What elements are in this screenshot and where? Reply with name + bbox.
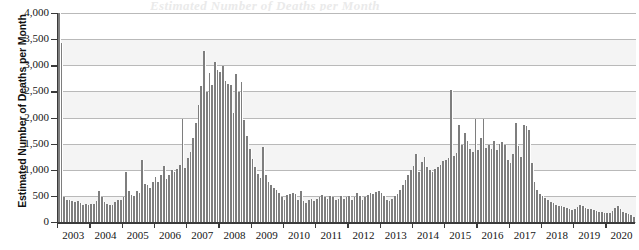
x-axis-tick	[89, 222, 90, 228]
x-axis-tick	[315, 222, 316, 228]
y-axis-tick	[51, 118, 57, 119]
y-axis-tick-label: 1,500	[5, 137, 49, 149]
x-axis-tick	[347, 222, 348, 228]
y-axis-tick	[51, 170, 57, 171]
x-axis-tick	[444, 222, 445, 228]
x-axis-tick	[218, 222, 219, 228]
x-axis-tick	[541, 222, 542, 228]
y-axis-tick	[51, 222, 57, 223]
y-axis-tick	[51, 39, 57, 40]
plot-area	[57, 13, 636, 222]
y-axis-tick-label: 0	[5, 215, 49, 227]
y-axis-tick	[51, 65, 57, 66]
x-axis-tick	[283, 222, 284, 228]
y-axis-tick	[51, 13, 57, 14]
y-axis-tick-label: 500	[5, 189, 49, 201]
y-axis-tick-label: 2,500	[5, 84, 49, 96]
x-axis-tick	[573, 222, 574, 228]
x-axis-line	[57, 222, 635, 224]
deaths-per-month-bar-chart: Estimated Number of Deaths per Month Est…	[0, 0, 639, 250]
x-axis-tick	[412, 222, 413, 228]
bar	[61, 43, 64, 222]
y-axis-tick	[51, 91, 57, 92]
y-axis-tick-label: 4,000	[5, 6, 49, 18]
x-axis-tick	[122, 222, 123, 228]
x-axis-tick	[605, 222, 606, 228]
x-axis-tick-label: 2020	[602, 229, 639, 241]
x-axis-tick	[380, 222, 381, 228]
x-axis-tick	[57, 222, 58, 228]
y-axis-tick	[51, 196, 57, 197]
clipped-chart-title: Estimated Number of Deaths per Month	[150, 0, 510, 11]
x-axis-tick	[251, 222, 252, 228]
x-axis-tick	[509, 222, 510, 228]
y-axis-tick-label: 3,500	[5, 32, 49, 44]
y-axis-tick	[51, 144, 57, 145]
y-axis-tick-label: 1,000	[5, 163, 49, 175]
y-axis-tick-label: 2,000	[5, 111, 49, 123]
x-axis-tick	[154, 222, 155, 228]
x-axis-tick	[186, 222, 187, 228]
y-axis-tick-label: 3,000	[5, 58, 49, 70]
x-axis-tick	[476, 222, 477, 228]
bar-series	[58, 13, 636, 222]
